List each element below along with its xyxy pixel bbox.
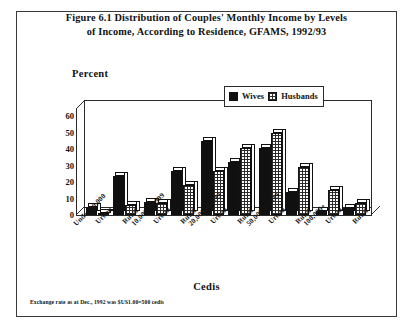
y-axis: 0102030405060	[0, 0, 84, 230]
bar-face	[286, 192, 297, 215]
legend-label-wives: Wives	[242, 92, 264, 101]
chart-legend: Wives Husbands	[224, 86, 324, 107]
figure-title-line-1: Figure 6.1 Distribution of Couples' Mont…	[66, 12, 347, 23]
plot-area	[84, 100, 372, 215]
figure-footnote: Exchange rate as at Dec., 1992 was $US1.…	[30, 299, 164, 305]
y-tick-label-0: 0	[44, 210, 74, 220]
bar-face	[171, 171, 182, 215]
bar-side-face	[309, 163, 313, 211]
bar-wives-3-1	[286, 192, 297, 215]
y-tick-label-10: 10	[44, 194, 74, 204]
bar-wives-1-1	[171, 171, 182, 215]
bar-wives-4-1	[343, 208, 354, 215]
y-tick-label-30: 30	[44, 161, 74, 171]
bar-wives-0-1	[113, 176, 124, 216]
plot-corner-top-left	[76, 100, 85, 109]
bar-face	[343, 208, 354, 215]
legend-swatch-wives	[229, 92, 238, 101]
y-tick-label-50: 50	[44, 128, 74, 138]
legend-label-husbands: Husbands	[281, 92, 318, 101]
figure-page: Figure 6.1 Distribution of Couples' Mont…	[0, 0, 415, 336]
bar-side-face	[251, 144, 255, 211]
y-tick-label-40: 40	[44, 144, 74, 154]
bar-face	[228, 162, 239, 215]
y-tick-label-20: 20	[44, 177, 74, 187]
bar-wives-2-1	[228, 162, 239, 215]
y-tick-label-60: 60	[44, 111, 74, 121]
bar-face	[113, 176, 124, 216]
plot-left-depth	[76, 108, 84, 215]
plot-corner-bottom-right	[371, 206, 380, 215]
bar-face	[240, 148, 251, 215]
bar-husbands-2-1	[240, 148, 251, 215]
bar-side-face	[194, 181, 198, 211]
x-axis-title: Cedis	[16, 281, 397, 292]
legend-swatch-husbands	[268, 92, 277, 101]
